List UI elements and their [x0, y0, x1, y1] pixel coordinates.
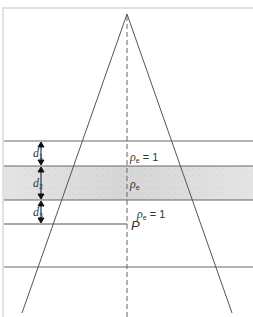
density-value: = 1	[150, 208, 166, 220]
rho-subscript: e	[136, 157, 140, 164]
density-label-layer3: ρe = 1	[137, 208, 165, 221]
point-p-label: P	[131, 219, 140, 232]
density-label-layer2: ρe	[130, 178, 140, 191]
d2-label: d2	[33, 177, 43, 190]
d3-label: d3	[33, 206, 43, 219]
d1-label: d1	[33, 147, 43, 160]
rho-subscript: e	[136, 184, 140, 191]
d1-subscript: 1	[39, 153, 43, 160]
point-p-text: P	[131, 218, 140, 233]
rho-subscript: e	[143, 214, 147, 221]
d2-subscript: 2	[39, 183, 43, 190]
d3-subscript: 3	[39, 212, 43, 219]
cone-left-edge	[22, 14, 127, 313]
density-label-layer1: ρe = 1	[130, 151, 158, 164]
density-value: = 1	[143, 151, 159, 163]
